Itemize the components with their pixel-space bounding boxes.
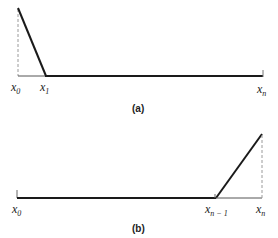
label-b-xn-1: xn − 1 bbox=[205, 203, 228, 218]
label-b-x0: x0 bbox=[12, 203, 21, 218]
panel-a-plot bbox=[18, 8, 263, 77]
caption-a: (a) bbox=[132, 104, 144, 114]
diagram-canvas bbox=[0, 0, 278, 238]
label-a-x0: x0 bbox=[11, 81, 20, 96]
label-b-xn: xn bbox=[256, 203, 265, 218]
panel-a-descending-segment bbox=[18, 8, 46, 76]
caption-b: (b) bbox=[132, 224, 145, 234]
panel-b-plot bbox=[17, 134, 262, 198]
label-a-xn: xn bbox=[257, 83, 266, 98]
label-a-x1: x1 bbox=[40, 81, 49, 96]
panel-b-ascending-segment bbox=[216, 134, 262, 198]
